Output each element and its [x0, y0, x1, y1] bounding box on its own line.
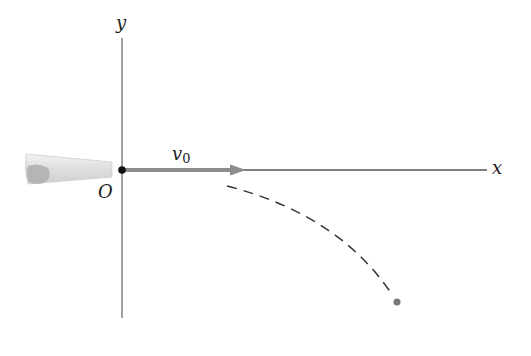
cannon-icon	[25, 154, 112, 184]
landing-point	[394, 299, 401, 306]
origin-label: O	[98, 183, 113, 201]
velocity-subscript: 0	[182, 151, 190, 166]
trajectory-path	[227, 186, 393, 296]
velocity-symbol: v	[172, 143, 182, 164]
projectile-diagram	[0, 0, 531, 356]
y-axis-label: y	[116, 14, 126, 32]
velocity-label: v0	[172, 145, 190, 166]
x-axis-label: x	[492, 159, 502, 177]
origin-dot	[118, 166, 126, 174]
